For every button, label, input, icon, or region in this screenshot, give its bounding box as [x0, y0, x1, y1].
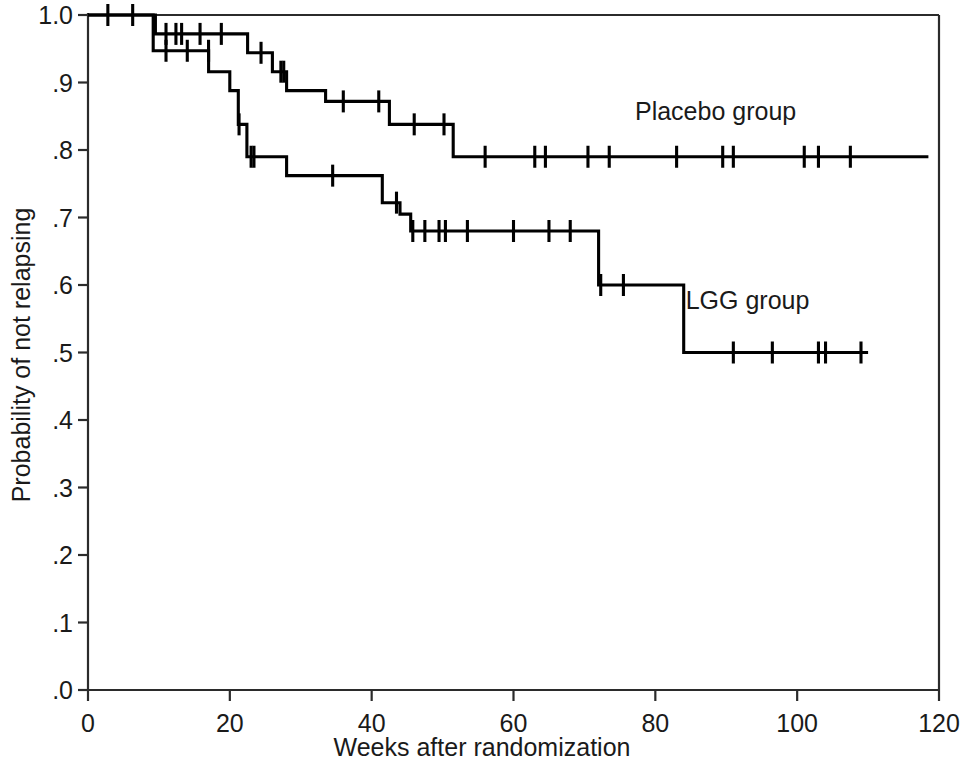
- y-axis-ticks: [78, 15, 88, 690]
- x-axis-title: Weeks after randomization: [334, 733, 631, 761]
- y-tick-label: .0: [52, 676, 73, 704]
- x-tick-label: 100: [776, 709, 818, 737]
- y-tick-label: .7: [52, 204, 73, 232]
- y-tick-label: .6: [52, 271, 73, 299]
- y-axis-tick-labels: .0.1.2.3.4.5.6.7.8.91.0: [38, 1, 73, 704]
- y-tick-label: .8: [52, 136, 73, 164]
- x-tick-label: 120: [918, 709, 960, 737]
- kaplan-meier-figure: 020406080100120 .0.1.2.3.4.5.6.7.8.91.0 …: [0, 0, 965, 764]
- y-tick-label: .5: [52, 339, 73, 367]
- survival-plot: 020406080100120 .0.1.2.3.4.5.6.7.8.91.0 …: [0, 0, 965, 764]
- y-axis-title: Probability of not relapsing: [7, 208, 35, 503]
- series-label-lgg: LGG group: [686, 286, 810, 314]
- x-axis-ticks: [88, 690, 939, 701]
- y-tick-label: .3: [52, 474, 73, 502]
- series-annotations: Placebo groupLGG group: [635, 97, 809, 314]
- y-tick-label: .4: [52, 406, 73, 434]
- y-tick-label: 1.0: [38, 1, 73, 29]
- x-tick-label: 20: [216, 709, 244, 737]
- y-tick-label: .1: [52, 609, 73, 637]
- x-tick-label: 80: [641, 709, 669, 737]
- y-tick-label: .2: [52, 541, 73, 569]
- y-tick-label: .9: [52, 69, 73, 97]
- x-tick-label: 0: [81, 709, 95, 737]
- series-label-placebo: Placebo group: [635, 97, 796, 125]
- km-curve-placebo: [88, 15, 928, 157]
